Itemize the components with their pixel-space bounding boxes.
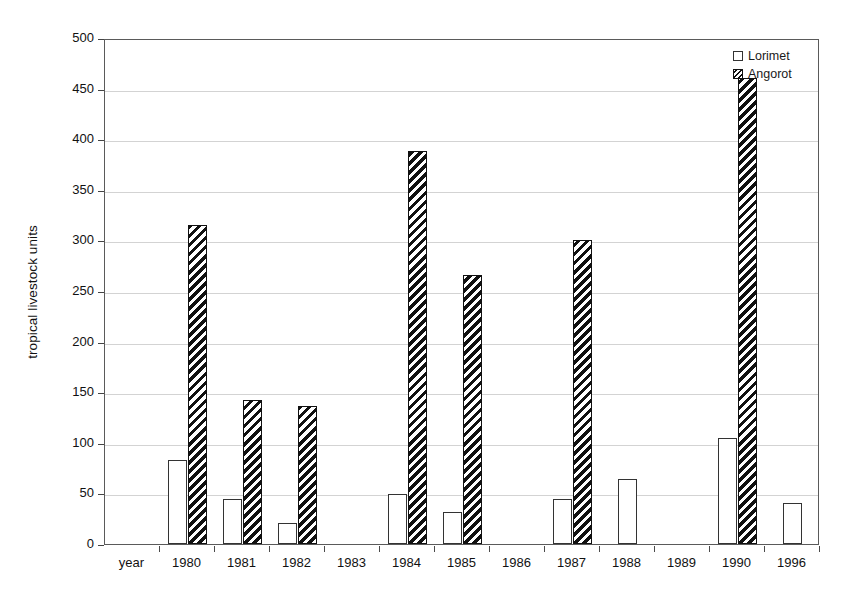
x-axis-tick bbox=[379, 546, 380, 552]
bar-groups bbox=[105, 40, 818, 544]
legend-item-angorot: Angorot bbox=[733, 65, 811, 83]
hatched-square-icon bbox=[733, 69, 743, 79]
hollow-square-icon bbox=[733, 51, 743, 61]
x-axis-tick-label: 1986 bbox=[489, 556, 544, 570]
bar-chart: tropical livestock units 050100150200250… bbox=[0, 0, 856, 605]
x-axis-tick-label: 1987 bbox=[544, 556, 599, 570]
x-axis-tick-label: 1984 bbox=[379, 556, 434, 570]
y-axis-tick-label: 50 bbox=[42, 486, 94, 499]
x-axis-tick bbox=[764, 546, 765, 552]
x-axis-tick-label: 1990 bbox=[709, 556, 764, 570]
bar-group bbox=[600, 40, 655, 544]
bar-lorimet-1996 bbox=[783, 503, 802, 544]
x-axis-tick-label: 1983 bbox=[324, 556, 379, 570]
y-axis-tick-label: 350 bbox=[42, 183, 94, 196]
y-axis-tick-label: 100 bbox=[42, 436, 94, 449]
bar-lorimet-1988 bbox=[618, 479, 637, 544]
bar-angorot-1982 bbox=[298, 406, 317, 544]
bar-group bbox=[160, 40, 215, 544]
x-axis-tick bbox=[599, 546, 600, 552]
bar-angorot-1984 bbox=[408, 151, 427, 544]
x-axis-tick-label: 1981 bbox=[214, 556, 269, 570]
bar-angorot-1981 bbox=[243, 400, 262, 544]
bar-lorimet-1987 bbox=[553, 499, 572, 544]
x-axis-tick bbox=[434, 546, 435, 552]
x-axis-tick bbox=[654, 546, 655, 552]
x-axis-tick-label: 1988 bbox=[599, 556, 654, 570]
bar-group bbox=[435, 40, 490, 544]
x-axis-tick-label: 1980 bbox=[159, 556, 214, 570]
x-axis-tick bbox=[544, 546, 545, 552]
bar-group bbox=[270, 40, 325, 544]
x-axis-tick bbox=[269, 546, 270, 552]
bar-angorot-1987 bbox=[573, 240, 592, 544]
x-axis-tick-label: 1996 bbox=[764, 556, 819, 570]
y-axis-tick-label: 500 bbox=[42, 31, 94, 44]
plot-area bbox=[104, 39, 819, 545]
bar-lorimet-1980 bbox=[168, 460, 187, 544]
bar-angorot-1990 bbox=[738, 78, 757, 544]
bar-lorimet-1985 bbox=[443, 512, 462, 544]
y-axis-tick-label: 200 bbox=[42, 335, 94, 348]
bar-group bbox=[655, 40, 710, 544]
x-axis-tick-label: 1982 bbox=[269, 556, 324, 570]
y-axis-title: tropical livestock units bbox=[22, 39, 42, 545]
bar-lorimet-1990 bbox=[718, 438, 737, 544]
x-axis-tick bbox=[159, 546, 160, 552]
y-axis-tick-label: 300 bbox=[42, 233, 94, 246]
chart-legend: Lorimet Angorot bbox=[727, 43, 817, 88]
x-axis-tick-label: 1989 bbox=[654, 556, 709, 570]
bar-group bbox=[490, 40, 545, 544]
y-axis-tick-label: 150 bbox=[42, 385, 94, 398]
bar-group bbox=[215, 40, 270, 544]
bar-angorot-1980 bbox=[188, 225, 207, 544]
x-axis-tick bbox=[489, 546, 490, 552]
bar-group bbox=[380, 40, 435, 544]
y-axis-tick bbox=[98, 545, 104, 546]
x-axis-tick bbox=[819, 546, 820, 552]
y-axis-tick-label: 400 bbox=[42, 132, 94, 145]
x-axis-tick bbox=[709, 546, 710, 552]
bar-angorot-1985 bbox=[463, 275, 482, 544]
legend-label-lorimet: Lorimet bbox=[748, 47, 790, 65]
bar-lorimet-1982 bbox=[278, 523, 297, 544]
bar-group bbox=[545, 40, 600, 544]
x-axis-tick-label: 1985 bbox=[434, 556, 489, 570]
bar-lorimet-1981 bbox=[223, 499, 242, 544]
legend-item-lorimet: Lorimet bbox=[733, 47, 811, 65]
bar-group bbox=[710, 40, 765, 544]
bar-group bbox=[765, 40, 820, 544]
y-axis-tick-label: 0 bbox=[42, 537, 94, 550]
bar-lorimet-1984 bbox=[388, 494, 407, 544]
x-axis-tick-label: year bbox=[104, 556, 159, 570]
x-axis-tick bbox=[324, 546, 325, 552]
bar-group bbox=[325, 40, 380, 544]
bar-group bbox=[105, 40, 160, 544]
y-axis-tick-label: 250 bbox=[42, 284, 94, 297]
legend-label-angorot: Angorot bbox=[748, 65, 792, 83]
x-axis-tick bbox=[214, 546, 215, 552]
y-axis-tick-label: 450 bbox=[42, 82, 94, 95]
